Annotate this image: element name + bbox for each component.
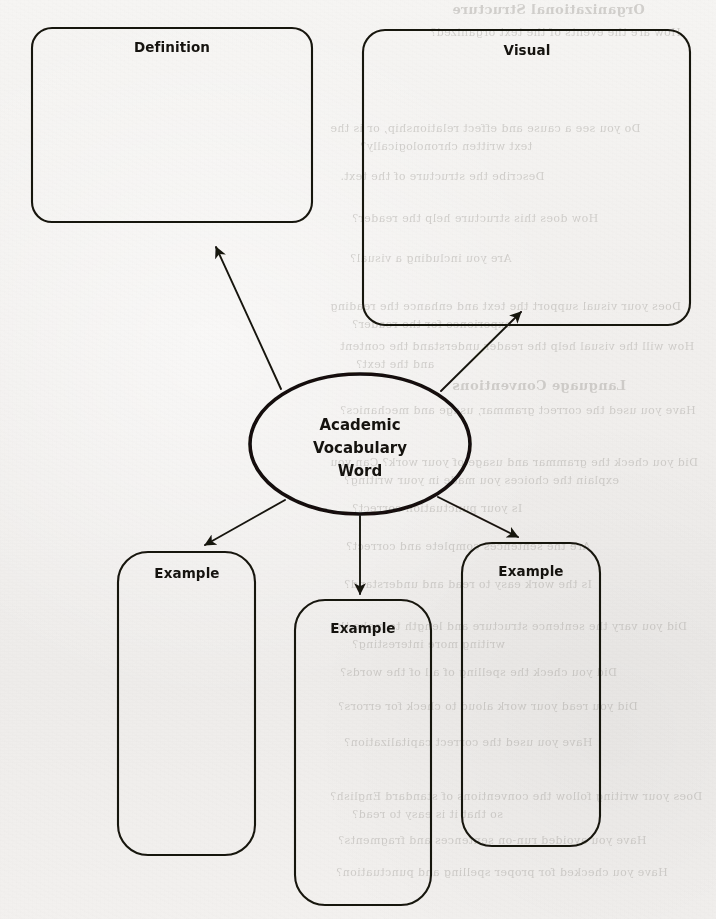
box-example-middle[interactable]: Example (295, 600, 431, 905)
center-label-line1: Academic (319, 416, 400, 434)
box-label-example-middle: Example (330, 620, 395, 636)
box-outline-example-right (462, 543, 600, 846)
box-outline-example-left (118, 552, 255, 855)
arrow-to-example-right (438, 497, 518, 537)
arrow-to-visual (441, 312, 521, 391)
box-example-left[interactable]: Example (118, 552, 255, 855)
center-label-line3: Word (338, 462, 382, 480)
box-label-definition: Definition (134, 39, 210, 55)
arrow-to-definition (216, 247, 281, 389)
center-label-line2: Vocabulary (313, 439, 407, 457)
box-label-visual: Visual (504, 42, 551, 58)
box-outline-definition (32, 28, 312, 222)
box-outline-visual (363, 30, 690, 325)
box-definition[interactable]: Definition (32, 28, 312, 222)
graphic-organizer-canvas: DefinitionVisualExampleExampleExample Ac… (0, 0, 716, 919)
box-outline-example-middle (295, 600, 431, 905)
box-example-right[interactable]: Example (462, 543, 600, 846)
center-node-group: AcademicVocabularyWord (250, 374, 470, 514)
arrow-to-example-left (205, 500, 285, 545)
box-label-example-right: Example (498, 563, 563, 579)
box-visual[interactable]: Visual (363, 30, 690, 325)
box-label-example-left: Example (154, 565, 219, 581)
